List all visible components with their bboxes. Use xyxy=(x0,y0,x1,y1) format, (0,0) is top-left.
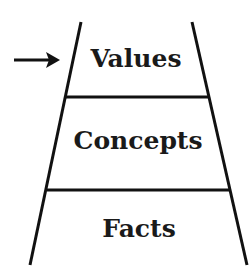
right-arrow-icon xyxy=(14,52,60,68)
level-label-values: Values xyxy=(91,44,182,73)
level-label-facts: Facts xyxy=(102,214,175,243)
level-label-concepts: Concepts xyxy=(74,126,203,155)
ladder-diagram: Values Concepts Facts xyxy=(0,0,252,267)
